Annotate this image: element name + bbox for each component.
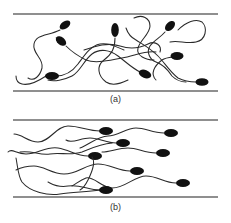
swimmer-icon	[16, 158, 113, 195]
swimmer-icon	[54, 34, 156, 61]
swimmer-icon	[80, 157, 94, 190]
swimmer-icon	[170, 20, 205, 42]
swimmer-icon	[28, 19, 72, 80]
swimmer-icon	[16, 164, 144, 175]
panel-b: (b)	[0, 110, 231, 223]
swimmer-icon	[72, 176, 190, 188]
panel-a-label: (a)	[0, 94, 231, 104]
swimmer-icon	[148, 19, 186, 82]
panel-b-label: (b)	[0, 202, 231, 212]
swimmer-icon	[102, 148, 170, 157]
panel-a: (a)	[0, 0, 231, 112]
swimmer-icon	[134, 16, 154, 60]
swimmer-icon	[126, 28, 209, 86]
